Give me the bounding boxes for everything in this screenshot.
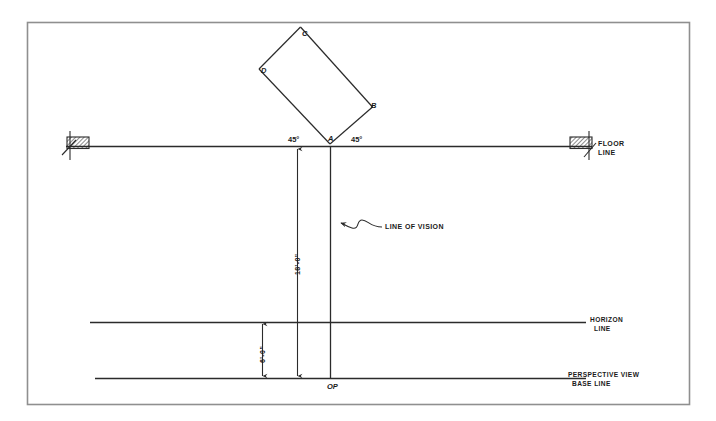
angle-label-right: 45° [351,135,362,145]
observation-point-label: OP [327,382,338,392]
object-plan-rectangle [259,27,373,144]
base-line-label-line2: BASE LINE [572,380,611,389]
vertex-label-d: D [261,66,266,76]
technical-drawing-svg [0,0,716,421]
dimension-label-6ft: 6'-0" [258,346,267,363]
edge-b-c [301,27,373,107]
drawing-canvas: C D B A 45° 45° FLOOR LINE LINE OF VISIO… [0,0,716,421]
angle-label-left: 45° [288,135,299,145]
line-of-vision-leader [341,220,382,228]
vertex-label-b: B [371,101,376,111]
horizon-line-label: HORIZON [590,316,623,325]
edge-d-a [259,69,330,144]
floor-line-left-end [62,131,89,160]
edge-c-d [259,27,301,69]
page-border-frame [28,23,690,405]
base-line-label: PERSPECTIVE VIEW [568,371,639,380]
line-of-vision-label: LINE OF VISION [385,222,444,231]
floor-line-label-line2: LINE [598,148,616,157]
floor-line-right-end [570,131,596,160]
vertex-label-a: A [328,134,333,144]
dimension-label-18ft: 18'-0" [293,254,302,275]
vertex-label-c: C [302,29,307,39]
horizon-line-label-line2: LINE [594,325,611,334]
